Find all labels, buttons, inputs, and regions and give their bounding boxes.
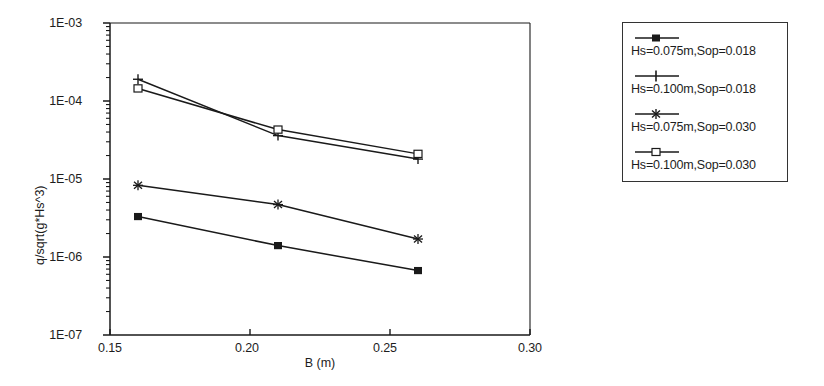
legend-item-3: Hs=0.100m,Sop=0.030 bbox=[623, 143, 787, 181]
y-axis-title: q/sqrt(g*Hs^3) bbox=[33, 186, 47, 266]
y-tick-label-1e-05: 1E-05 bbox=[10, 172, 82, 186]
legend-item-0: Hs=0.075m,Sop=0.018 bbox=[623, 29, 787, 67]
asterisk-marker-icon bbox=[633, 107, 681, 121]
plus-marker-icon bbox=[633, 69, 681, 83]
series-0-point-2 bbox=[414, 267, 422, 274]
series-0-point-1 bbox=[274, 242, 282, 249]
open-square-marker-icon bbox=[633, 145, 681, 159]
legend-label-2: Hs=0.075m,Sop=0.030 bbox=[631, 120, 756, 134]
legend-item-2: Hs=0.075m,Sop=0.030 bbox=[623, 105, 787, 143]
chart-figure: 1E-03 1E-04 1E-05 1E-06 1E-07 0.15 0.20 … bbox=[0, 0, 824, 386]
x-tick-label-0-15: 0.15 bbox=[80, 341, 140, 355]
series-line-2 bbox=[138, 185, 418, 239]
series-line-3 bbox=[138, 88, 418, 153]
legend-label-0: Hs=0.075m,Sop=0.018 bbox=[631, 44, 756, 58]
series-3-point-1 bbox=[274, 126, 282, 133]
x-tick-label-0-25: 0.25 bbox=[355, 341, 415, 355]
filled-square-marker-icon bbox=[633, 31, 681, 45]
x-axis-title: B (m) bbox=[0, 356, 640, 370]
x-tick-label-0-30: 0.30 bbox=[500, 341, 560, 355]
y-tick-label-1e-07: 1E-07 bbox=[10, 328, 82, 342]
legend: Hs=0.075m,Sop=0.018 Hs=0.100m,Sop=0.018 … bbox=[622, 22, 788, 182]
series-0-point-0 bbox=[134, 213, 142, 220]
series-3-point-0 bbox=[134, 85, 142, 92]
y-tick-label-1e-03: 1E-03 bbox=[10, 16, 82, 30]
y-tick-label-1e-04: 1E-04 bbox=[10, 94, 82, 108]
legend-label-3: Hs=0.100m,Sop=0.030 bbox=[631, 158, 756, 172]
legend-item-1: Hs=0.100m,Sop=0.018 bbox=[623, 67, 787, 105]
x-tick-label-0-20: 0.20 bbox=[217, 341, 277, 355]
legend-label-1: Hs=0.100m,Sop=0.018 bbox=[631, 82, 756, 96]
series-3-point-2 bbox=[414, 150, 422, 157]
